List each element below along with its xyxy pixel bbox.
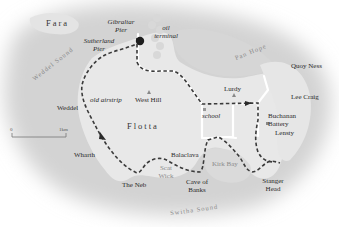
label-sutherland-pier: Sutherland Pier: [82, 37, 116, 53]
label-buchanan-battery: Buchanan Battery: [268, 112, 298, 128]
label-flotta: Flotta: [127, 122, 159, 130]
label-lurdy: Lurdy: [224, 85, 241, 93]
label-west-hill: West Hill: [135, 96, 161, 104]
label-lensty: Lensty: [275, 129, 294, 137]
scale-start-label: 0: [10, 126, 13, 134]
scale-end-label: 1km: [59, 126, 68, 134]
start-marker-icon: [136, 37, 144, 45]
label-balaclava: Balaclava: [171, 151, 199, 159]
label-gibraltar-pier: Gibraltar Pier: [106, 18, 136, 34]
label-oil-terminal: oil terminal: [153, 24, 179, 40]
label-lee-craig: Lee Craig: [291, 93, 319, 101]
label-kirk-bay: Kirk Bay: [212, 160, 238, 168]
label-weddel: Weddel: [57, 104, 78, 112]
label-quoy-ness: Quoy Ness: [291, 62, 322, 70]
route-map: Fara Flotta Weddel Sound Pan Hope Switha…: [0, 0, 339, 227]
label-wharth: Wharth: [74, 151, 95, 159]
label-fara: Fara: [46, 19, 69, 27]
label-school: school: [202, 112, 220, 120]
school-marker-icon: [203, 108, 206, 111]
label-scat-wick: Scat Wick: [155, 164, 177, 180]
label-stanger-head: Stanger Head: [260, 177, 286, 193]
label-the-neb: The Neb: [122, 181, 146, 189]
label-old-airstrip: old airstrip: [90, 96, 122, 104]
label-cave-of-banks: Cave of Banks: [184, 178, 210, 194]
